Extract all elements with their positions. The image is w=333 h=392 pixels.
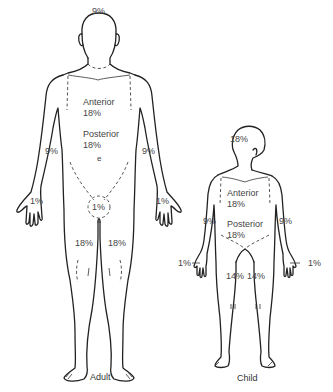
child-right-hand-percentage: 1% [308,258,321,268]
child-right-arm-percentage: 9% [279,216,292,226]
adult-trunk-posterior-label: Posterior [83,129,119,139]
adult-trunk-anterior-value: 18% [83,108,101,118]
child-trunk-posterior-label: Posterior [227,219,263,229]
adult-navel-mark: e [97,154,101,164]
child-left-arm-percentage: 9% [203,216,216,226]
child-trunk-posterior-value: 18% [227,230,245,240]
adult-left-arm-percentage: 9% [45,146,58,156]
adult-body-outline [17,75,98,381]
adult-left-hand-percentage: 1% [30,196,43,206]
child-caption: Child [237,373,258,383]
child-right-leg-percentage: 14% [247,271,265,281]
adult-head-percentage: 9% [92,6,105,16]
child-left-leg-percentage: 14% [226,271,244,281]
adult-left-leg-percentage: 18% [75,238,93,248]
adult-caption: Adult [90,372,111,382]
adult-perineum-percentage: 1% [92,202,105,212]
child-left-hand-percentage: 1% [178,258,191,268]
adult-right-arm-percentage: 9% [142,146,155,156]
child-trunk-anterior-label: Anterior [227,188,259,198]
child-trunk-anterior-value: 18% [227,199,245,209]
adult-right-hand-percentage: 1% [156,196,169,206]
adult-right-leg-percentage: 18% [108,238,126,248]
child-head-percentage: 18% [230,134,248,144]
adult-trunk-posterior-value: 18% [83,140,101,150]
child-figure [192,126,300,367]
adult-trunk-anterior-label: Anterior [83,97,115,107]
